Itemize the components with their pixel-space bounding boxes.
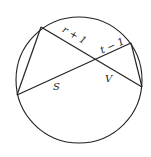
segment-a-b [17,27,41,95]
chord-a-d [41,27,142,87]
chord-diagram: r + 1 t − 1 S V [0,0,151,157]
label-t-minus-1: t − 1 [98,35,125,55]
chord-b-c [17,43,131,95]
label-s: S [53,81,60,92]
label-v: V [105,73,114,84]
label-r-plus-1: r + 1 [61,24,89,46]
